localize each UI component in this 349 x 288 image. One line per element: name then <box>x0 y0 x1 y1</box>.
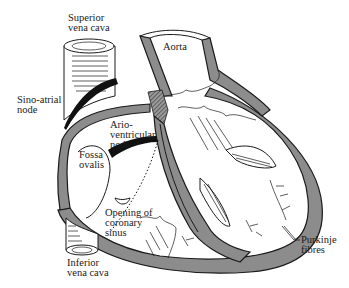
coronary-sinus-opening <box>115 198 130 204</box>
label-line: sinus <box>105 228 153 238</box>
label-superior-vena-cava: Superior vena cava <box>68 13 110 33</box>
label-line: node <box>17 105 61 115</box>
label-line: node <box>110 140 155 150</box>
label-line: fibres <box>301 245 337 255</box>
label-ario-ventricular-node: Ario- ventricular node <box>110 120 155 150</box>
label-purkinje-fibres: Purkinje fibres <box>301 235 337 255</box>
label-aorta: Aorta <box>163 42 187 52</box>
label-line: Aorta <box>163 42 187 52</box>
superior-vena-cava <box>64 39 115 120</box>
label-fossa-ovalis: Fossa ovalis <box>79 150 104 170</box>
label-line: vena cava <box>67 268 109 278</box>
label-inferior-vena-cava: Inferior vena cava <box>67 258 109 278</box>
label-sino-atrial-node: Sino-atrial node <box>17 95 61 115</box>
label-opening-of-coronary-sinus: Opening of coronary sinus <box>105 208 153 238</box>
label-line: vena cava <box>68 23 110 33</box>
label-line: ovalis <box>79 160 104 170</box>
